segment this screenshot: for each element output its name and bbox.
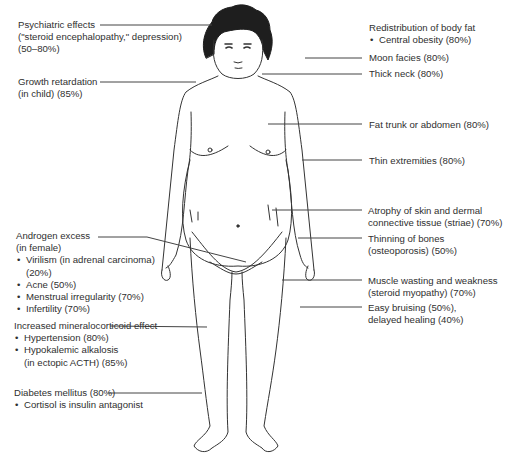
label-thin-extremities: Thin extremities (80%) <box>369 155 465 167</box>
androgen-item-menstrual: Menstrual irregularity (70%) <box>16 291 155 303</box>
face <box>213 40 262 79</box>
label-psychiatric-effects: Psychiatric effects ("steroid encephalop… <box>18 19 182 56</box>
androgen-item-acne: Acne (50%) <box>16 279 155 291</box>
label-moon-facies: Moon facies (80%) <box>369 52 449 64</box>
label-body-fat: Redistribution of body fat Central obesi… <box>369 22 475 46</box>
label-androgen-excess: Androgen excess (in female) Virilism (in… <box>16 230 155 315</box>
label-mineralocorticoid: Increased mineralocorticoid effect Hyper… <box>14 320 157 369</box>
label-skin-atrophy: Atrophy of skin and dermal connective ti… <box>368 205 502 229</box>
label-easy-bruising: Easy bruising (50%), delayed healing (40… <box>368 302 463 326</box>
label-thick-neck: Thick neck (80%) <box>369 68 443 80</box>
label-diabetes: Diabetes mellitus (80%) Cortisol is insu… <box>14 387 143 411</box>
androgen-item-virilism: Virilism (in adrenal carcinoma) <box>16 254 155 266</box>
label-thinning-bones: Thinning of bones (osteoporosis) (50%) <box>368 233 457 257</box>
label-growth-retardation: Growth retardation (in child) (85%) <box>18 76 97 100</box>
label-fat-trunk: Fat trunk or abdomen (80%) <box>369 119 489 131</box>
label-muscle-wasting: Muscle wasting and weakness (steroid myo… <box>368 275 498 299</box>
androgen-item-infertility: Infertility (70%) <box>16 303 155 315</box>
